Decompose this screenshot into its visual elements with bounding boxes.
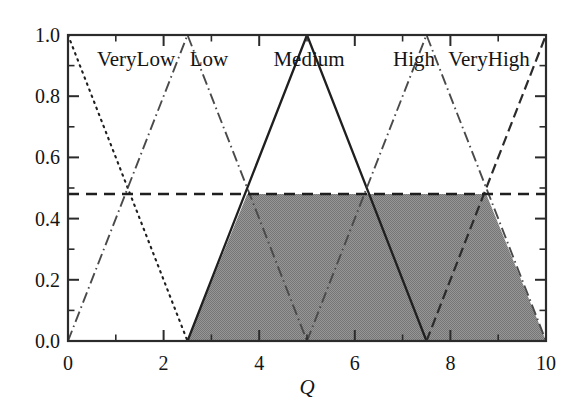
y-tick-label-5: 1.0 [35,24,60,46]
y-tick-label-4: 0.8 [35,85,60,107]
series-label-veryhigh: VeryHigh [448,47,530,71]
x-axis-label: Q [299,375,314,399]
y-tick-label-1: 0.2 [35,269,60,291]
series-label-low: Low [190,47,229,71]
x-tick-label-1: 2 [159,352,169,374]
y-tick-label-3: 0.6 [35,146,60,168]
series-label-verylow: VeryLow [97,47,176,71]
chart-canvas: 0.0 0.2 0.4 0.6 0.8 1.0 0 2 4 6 8 10 Q V… [0,0,573,410]
series-label-high: High [393,47,436,71]
x-tick-label-0: 0 [63,352,73,374]
y-tick-label-2: 0.4 [35,208,60,230]
series-label-medium: Medium [273,47,344,71]
x-tick-label-4: 8 [445,352,455,374]
x-tick-label-5: 10 [536,352,556,374]
y-tick-label-0: 0.0 [35,330,60,352]
x-tick-label-2: 4 [254,352,264,374]
fuzzy-membership-chart: 0.0 0.2 0.4 0.6 0.8 1.0 0 2 4 6 8 10 Q V… [0,0,573,410]
shaded-region [188,194,547,341]
x-tick-label-3: 6 [350,352,360,374]
